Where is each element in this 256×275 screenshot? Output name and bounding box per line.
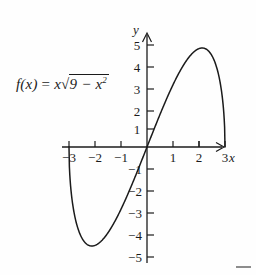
y-tick-label-2: 2 — [131, 104, 143, 120]
x-axis-ticks — [69, 141, 199, 147]
y-axis-label: y — [133, 22, 139, 38]
x-tick-label-1: 1 — [167, 150, 179, 166]
radicand-exponent: 2 — [102, 75, 107, 85]
y-tick-label--1: −1 — [126, 162, 144, 178]
y-tick-label--3: −3 — [126, 206, 144, 222]
y-axis-ticks — [147, 45, 154, 257]
y-tick-label--4: −4 — [126, 228, 144, 244]
formula-lhs: f(x) — [16, 76, 38, 92]
formula-equals: = — [42, 76, 51, 92]
y-tick-label-3: 3 — [131, 82, 143, 98]
function-graph-figure: f(x) = x√9 − x2 y x −3 −2 −1 1 2 3 5 4 3… — [0, 0, 256, 275]
y-tick-label-5: 5 — [131, 38, 143, 54]
y-tick-label--2: −2 — [126, 184, 144, 200]
y-tick-label--5: −5 — [126, 250, 144, 266]
formula-coefficient: x — [54, 76, 61, 92]
function-formula: f(x) = x√9 − x2 — [16, 74, 109, 93]
page-corner-mark — [236, 266, 251, 268]
radical-group: √9 − x2 — [61, 74, 109, 93]
x-tick-label--3: −3 — [60, 150, 78, 166]
y-tick-label-1: 1 — [131, 122, 143, 138]
radicand: 9 − x2 — [69, 74, 109, 93]
radicand-lead: 9 − x — [70, 76, 103, 92]
y-tick-label-4: 4 — [131, 60, 143, 76]
x-tick-label-2: 2 — [193, 150, 205, 166]
x-tick-label--2: −2 — [86, 150, 104, 166]
x-tick-label-3: 3 — [219, 150, 231, 166]
